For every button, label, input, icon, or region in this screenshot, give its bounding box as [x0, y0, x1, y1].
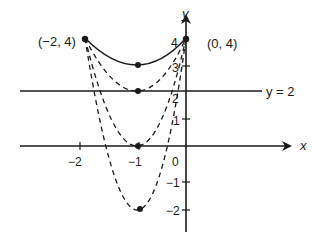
y-tick-label-2: 2 — [172, 92, 179, 106]
parabola-family-diagram: (−2, 4) (0, 4) y x y = 2 4 3 2 1 −1 −2 −… — [0, 0, 312, 243]
point-label-left: (−2, 4) — [38, 34, 76, 49]
y-tick-label-neg2: −2 — [166, 204, 180, 218]
vertex-neg1-0 — [135, 143, 141, 149]
x-axis-label: x — [299, 138, 307, 153]
vertex-neg1-2 — [135, 88, 141, 94]
horizontal-line-label: y = 2 — [266, 84, 295, 99]
y-tick-label-3: 3 — [172, 61, 179, 75]
y-axis-label: y — [181, 6, 190, 21]
vertex-neg1-3 — [135, 62, 141, 68]
x-tick-label-0: 0 — [172, 155, 179, 169]
y-tick-label-1: 1 — [173, 114, 180, 128]
y-tick-label-neg1: −1 — [166, 176, 180, 190]
point-neg2-4 — [82, 36, 88, 42]
vertex-neg1-neg2 — [137, 206, 143, 212]
x-tick-label-neg1: −1 — [128, 155, 142, 169]
x-tick-label-neg2: −2 — [68, 155, 82, 169]
point-label-right: (0, 4) — [207, 36, 237, 51]
point-0-4 — [183, 36, 189, 42]
y-tick-label-4: 4 — [171, 36, 178, 50]
